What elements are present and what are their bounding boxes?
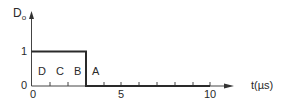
region-label-a: A	[92, 66, 99, 77]
region-label-c: C	[56, 66, 64, 77]
y-axis-arrow-icon	[29, 11, 34, 19]
x-axis-label: t(µs)	[251, 80, 273, 91]
timing-diagram	[0, 0, 283, 103]
region-label-d: D	[38, 66, 46, 77]
y-axis-label: Do	[13, 8, 26, 23]
region-label-b: B	[74, 66, 81, 77]
x-tick-10: 10	[204, 89, 216, 100]
y-tick-1: 1	[21, 46, 27, 57]
x-tick-0: 0	[30, 89, 36, 100]
x-tick-5: 5	[118, 89, 124, 100]
y-tick-0: 0	[21, 80, 27, 91]
x-axis-arrow-icon	[224, 84, 234, 89]
